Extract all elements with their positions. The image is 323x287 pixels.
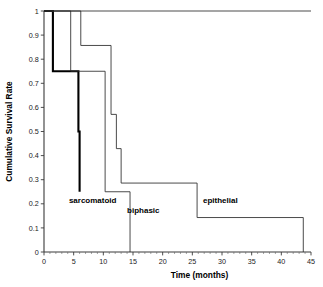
- chart-background: [0, 0, 323, 287]
- x-tick-label: 35: [248, 257, 256, 266]
- y-tick-label: 0.1: [29, 224, 39, 233]
- y-tick-label: 0.9: [29, 31, 39, 40]
- y-tick-label: 0.4: [29, 151, 39, 160]
- x-tick-label: 25: [188, 257, 196, 266]
- x-tick-label: 5: [72, 257, 76, 266]
- y-tick-label: 0: [35, 248, 39, 257]
- x-tick-label: 45: [307, 257, 315, 266]
- curve-label-biphasic: biphasic: [127, 206, 160, 215]
- x-tick-label: 0: [42, 257, 46, 266]
- curve-label-epithelial: epithelial: [203, 196, 238, 205]
- x-axis-title: Time (months): [171, 270, 229, 280]
- x-tick-label: 10: [99, 257, 107, 266]
- x-tick-label: 20: [159, 257, 167, 266]
- y-tick-label: 0.8: [29, 55, 39, 64]
- y-tick-label: 0.2: [29, 199, 39, 208]
- y-tick-label: 0.5: [29, 127, 39, 136]
- kaplan-meier-chart: 00.10.20.30.40.50.60.70.80.91 0510152025…: [0, 0, 323, 287]
- y-tick-label: 1: [35, 7, 39, 16]
- y-tick-label: 0.3: [29, 175, 39, 184]
- x-tick-label: 40: [277, 257, 285, 266]
- y-tick-label: 0.6: [29, 103, 39, 112]
- survival-chart-figure: 00.10.20.30.40.50.60.70.80.91 0510152025…: [0, 0, 323, 287]
- y-tick-label: 0.7: [29, 79, 39, 88]
- y-axis-title: Cumulative Survival Rate: [4, 81, 14, 182]
- x-tick-label: 15: [129, 257, 137, 266]
- x-tick-label: 30: [218, 257, 226, 266]
- curve-label-sarcomatoid: sarcomatoid: [69, 196, 117, 205]
